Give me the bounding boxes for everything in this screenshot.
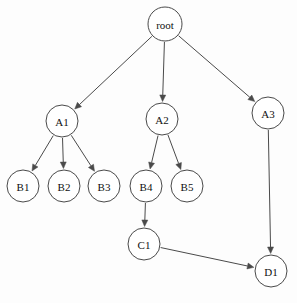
edge-root-to-A2 bbox=[160, 42, 166, 102]
node-label-B1: B1 bbox=[17, 181, 30, 193]
node-label-C1: C1 bbox=[138, 239, 151, 251]
node-C1[interactable]: C1 bbox=[128, 228, 160, 260]
node-A3[interactable]: A3 bbox=[252, 97, 284, 129]
node-label-A1: A1 bbox=[55, 116, 68, 128]
edge-root-to-A1 bbox=[75, 36, 152, 109]
arrowhead-icon bbox=[268, 247, 274, 254]
arrowhead-icon bbox=[247, 263, 254, 269]
edge-A2-to-B5 bbox=[168, 135, 181, 170]
node-B2[interactable]: B2 bbox=[48, 170, 80, 202]
arrowhead-icon bbox=[88, 164, 94, 171]
node-label-root: root bbox=[156, 19, 174, 31]
edge-B4-to-C1 bbox=[142, 203, 148, 227]
node-B1[interactable]: B1 bbox=[7, 170, 39, 202]
arrowhead-icon bbox=[32, 164, 38, 171]
node-label-B4: B4 bbox=[140, 181, 153, 193]
node-label-B3: B3 bbox=[98, 181, 111, 193]
arrowhead-icon bbox=[149, 162, 155, 169]
edge-A3-to-D1 bbox=[268, 130, 274, 254]
node-A2[interactable]: A2 bbox=[146, 103, 178, 135]
arrowhead-icon bbox=[160, 95, 166, 102]
node-label-D1: D1 bbox=[264, 266, 277, 278]
arrowhead-icon bbox=[176, 162, 182, 169]
node-label-B2: B2 bbox=[58, 181, 71, 193]
edge-C1-to-D1 bbox=[161, 248, 254, 269]
node-label-A3: A3 bbox=[261, 108, 275, 120]
edge-A1-to-B2 bbox=[60, 138, 66, 169]
node-label-A2: A2 bbox=[155, 114, 168, 126]
arrowhead-icon bbox=[142, 220, 148, 227]
edge-A2-to-B4 bbox=[149, 136, 158, 169]
diagram-canvas: rootA1A2A3B1B2B3B4B5C1D1 bbox=[0, 0, 297, 303]
node-root[interactable]: root bbox=[148, 7, 182, 41]
edge-A1-to-B3 bbox=[71, 135, 94, 171]
node-B4[interactable]: B4 bbox=[130, 170, 162, 202]
graph-svg: rootA1A2A3B1B2B3B4B5C1D1 bbox=[0, 0, 297, 303]
edge-A1-to-B1 bbox=[32, 136, 53, 171]
node-B3[interactable]: B3 bbox=[88, 170, 120, 202]
node-D1[interactable]: D1 bbox=[255, 255, 287, 287]
node-A1[interactable]: A1 bbox=[46, 105, 78, 137]
nodes-layer: rootA1A2A3B1B2B3B4B5C1D1 bbox=[7, 7, 287, 287]
edge-root-to-A3 bbox=[179, 36, 255, 102]
arrowhead-icon bbox=[60, 162, 66, 169]
node-label-B5: B5 bbox=[181, 181, 194, 193]
node-B5[interactable]: B5 bbox=[171, 170, 203, 202]
